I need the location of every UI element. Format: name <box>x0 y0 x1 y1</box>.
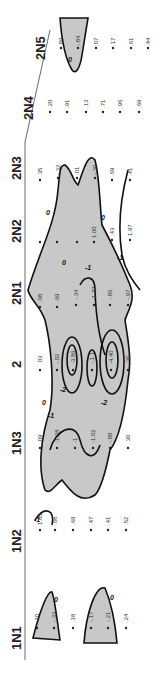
svg-text:-3.86: -3.86 <box>70 350 76 364</box>
svg-text:-2: -2 <box>101 399 107 406</box>
svg-text:-2: -2 <box>60 386 66 393</box>
axis-label-1n1: 1N1 <box>9 626 24 650</box>
svg-text:0: 0 <box>42 399 46 406</box>
svg-text:0: 0 <box>110 594 114 601</box>
axis-label-2n2: 2N2 <box>9 219 24 243</box>
svg-text:.89: .89 <box>58 37 64 46</box>
svg-text:-.30: -.30 <box>92 164 98 175</box>
svg-text:-.34: -.34 <box>73 289 79 300</box>
svg-text:.71: .71 <box>100 99 106 108</box>
svg-text:.01: .01 <box>74 166 80 175</box>
svg-text:-1: -1 <box>34 516 40 523</box>
svg-text:.20: .20 <box>47 99 53 108</box>
svg-text:-4.40: -4.40 <box>108 350 114 364</box>
svg-text:-.1.1: -.1.1 <box>89 351 95 364</box>
svg-text:.30: .30 <box>125 434 131 443</box>
svg-text:.41: .41 <box>105 516 111 525</box>
axis-labels: 1N1 1N2 1N3 2 2N1 2N2 2N3 2N4 2N5 <box>9 36 48 650</box>
svg-text:.47: .47 <box>88 516 94 525</box>
svg-text:-1: -1 <box>117 254 123 261</box>
axis-label-1n2: 1N2 <box>9 529 24 553</box>
svg-text:-1: -1 <box>85 264 91 271</box>
svg-text:.69: .69 <box>70 516 76 525</box>
svg-text:-1.77: -1.77 <box>91 286 97 300</box>
svg-text:0: 0 <box>54 596 58 603</box>
svg-text:-1: -1 <box>48 412 54 419</box>
svg-text:.41: .41 <box>127 167 133 176</box>
svg-text:-1.28: -1.28 <box>54 429 60 443</box>
svg-text:.09: .09 <box>37 434 43 443</box>
axis-label-2n5: 2N5 <box>33 36 48 60</box>
svg-text:.44: .44 <box>145 37 151 46</box>
svg-text:.69: .69 <box>109 167 115 176</box>
contour-region-2n5 <box>60 18 88 72</box>
svg-text:-.21: -.21 <box>105 611 111 622</box>
axis-label-1n3: 1N3 <box>9 431 24 455</box>
svg-text:-.97: -.97 <box>125 289 131 300</box>
svg-text:.43: .43 <box>109 227 115 236</box>
svg-text:.07: .07 <box>93 37 99 46</box>
svg-text:.52: .52 <box>123 516 129 525</box>
svg-text:.96: .96 <box>117 99 123 108</box>
svg-text:.08: .08 <box>37 293 43 302</box>
svg-text:0: 0 <box>101 214 105 221</box>
svg-text:.91: .91 <box>64 99 70 108</box>
axis-label-2n3: 2N3 <box>9 156 24 180</box>
svg-text:-.84: -.84 <box>75 35 81 46</box>
svg-text:0: 0 <box>46 209 50 216</box>
contour-diagram: 1N1 1N2 1N3 2 2N1 2N2 2N3 2N4 2N5 .89 -.… <box>0 0 154 674</box>
svg-text:-.88: -.88 <box>107 432 113 443</box>
svg-text:.03: .03 <box>37 355 43 364</box>
svg-text:1.00: 1.00 <box>91 226 97 238</box>
svg-text:0: 0 <box>68 56 72 63</box>
contour-region-main <box>28 158 132 499</box>
axis-label-2n1: 2N1 <box>9 281 24 305</box>
axis-label-2: 2 <box>9 361 24 368</box>
svg-text:-.86: -.86 <box>107 289 113 300</box>
svg-text:-.02: -.02 <box>54 353 60 364</box>
svg-text:.13: .13 <box>83 99 89 108</box>
svg-text:.18: .18 <box>70 613 76 622</box>
svg-text:.69: .69 <box>54 293 60 302</box>
svg-text:-.32: -.32 <box>55 164 61 175</box>
svg-text:0: 0 <box>62 259 66 266</box>
svg-text:.17: .17 <box>110 37 116 46</box>
svg-text:-.17: -.17 <box>88 611 94 622</box>
svg-text:.69: .69 <box>136 99 142 108</box>
svg-text:.35: .35 <box>37 167 43 176</box>
svg-text:.10: .10 <box>34 613 40 622</box>
svg-text:-.33: -.33 <box>51 611 57 622</box>
svg-text:-1: -1 <box>72 437 78 443</box>
svg-text:.61: .61 <box>128 37 134 46</box>
svg-text:-1.02: -1.02 <box>90 429 96 443</box>
axis-label-2n4: 2N4 <box>21 95 36 120</box>
svg-text:.30: .30 <box>125 355 131 364</box>
svg-text:.24: .24 <box>123 613 129 622</box>
svg-text:.68: .68 <box>52 516 58 525</box>
svg-text:1.97: 1.97 <box>127 224 133 236</box>
